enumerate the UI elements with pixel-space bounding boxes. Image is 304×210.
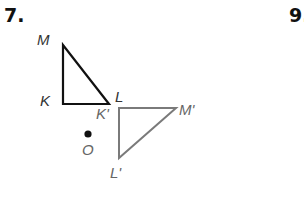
vertex-label-k-prime: K' [96,105,109,122]
vertex-label-l: L [115,88,123,105]
vertex-label-k: K [40,92,50,109]
triangle-klm [63,45,109,104]
vertex-label-m: M [37,31,50,48]
vertex-label-l-prime: L' [110,164,121,181]
triangle-k-prime-l-prime-m-prime [119,108,176,158]
center-point-o [84,130,91,137]
center-label-o: O [82,141,94,158]
vertex-label-m-prime: M' [179,101,194,118]
